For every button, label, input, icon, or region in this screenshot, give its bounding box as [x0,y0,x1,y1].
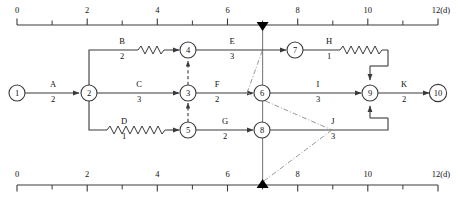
bottom-time-axis: 0 2 4 6 8 10 12(d) [15,169,450,192]
bottom-axis-tick-label-2: 2 [85,169,89,179]
activity-A-duration: 2 [51,94,55,104]
activity-label-F: F 2 [215,79,220,104]
bottom-axis-tick-label-8: 8 [296,169,300,179]
activity-B-duration: 2 [120,51,124,61]
activity-label-J: J 3 [331,116,335,141]
top-axis-tick-label-6: 6 [225,5,229,15]
time-marker-triangle-top [257,22,269,31]
activity-B-name: B [119,36,125,46]
top-axis-unit-label: 12(d) [432,5,451,15]
node-7-label: 7 [293,45,297,55]
activity-line-J [270,118,388,130]
activity-K-name: K [401,79,408,89]
activity-label-B: B 2 [119,36,125,61]
time-marker-triangle-bottom [257,179,269,188]
node-2[interactable]: 2 [81,85,97,101]
node-2-label: 2 [87,88,91,98]
fan-construction-lines [247,50,332,182]
node-3-label: 3 [186,88,190,98]
activity-label-A: A 2 [50,79,57,104]
top-axis-tick-label-2: 2 [85,5,89,15]
network-diagram-canvas: 0 2 4 6 8 10 12(d) 0 2 4 6 8 10 [0,0,460,205]
activity-J-name: J [331,116,335,126]
activity-I-duration: 3 [316,94,320,104]
activity-H-duration: 1 [327,51,331,61]
activity-H-name: H [326,36,332,46]
activity-float-spring-B [138,46,171,54]
activity-D-name: D [121,116,127,126]
node-9[interactable]: 9 [362,85,378,101]
node-8[interactable]: 8 [254,122,270,138]
bottom-axis-tick-label-10: 10 [364,169,373,179]
bottom-axis-tick-label-6: 6 [225,169,229,179]
activity-line-B [89,50,138,85]
node-10[interactable]: 10 [429,84,446,101]
activity-label-K: K 2 [401,79,408,104]
top-axis-tick-label-0: 0 [15,5,19,15]
node-7[interactable]: 7 [287,42,303,58]
bottom-axis-tick-label-0: 0 [15,169,19,179]
activity-I-name: I [317,79,320,89]
activity-J-duration: 3 [331,131,335,141]
activity-C-name: C [136,79,142,89]
node-1-label: 1 [15,88,19,98]
activity-E-name: E [229,36,234,46]
activity-C-duration: 3 [137,94,141,104]
node-6-label: 6 [260,88,264,98]
activity-F-name: F [215,79,220,89]
activity-label-D: D 1 [121,116,127,141]
activity-label-H: H 1 [326,36,332,61]
node-8-label: 8 [260,125,264,135]
node-1[interactable]: 1 [9,85,25,101]
node-5-label: 5 [186,125,190,135]
node-9-label: 9 [368,88,372,98]
node-6[interactable]: 6 [254,85,270,101]
activity-G-duration: 2 [223,131,227,141]
activity-line-D [89,101,107,130]
activity-float-spring-H [340,46,388,54]
activity-A-name: A [50,79,57,89]
activity-float-spring-D [107,126,169,134]
activity-label-E: E 3 [229,36,234,61]
top-time-axis: 0 2 4 6 8 10 12(d) [15,5,450,25]
activity-label-C: C 3 [136,79,142,104]
activity-F-duration: 2 [215,94,219,104]
top-axis-ticks [17,19,438,26]
top-axis-tick-label-10: 10 [364,5,373,15]
node-10-label: 10 [434,88,443,98]
time-marker-line [257,22,269,188]
activity-label-I: I 3 [316,79,320,104]
network-diagram-svg: 0 2 4 6 8 10 12(d) 0 2 4 6 8 10 [0,0,460,205]
bottom-axis-unit-label: 12(d) [432,169,451,179]
activity-D-duration: 1 [122,131,126,141]
activity-G-name: G [222,116,228,126]
activity-label-G: G 2 [222,116,228,141]
node-5[interactable]: 5 [180,122,196,138]
top-axis-tick-label-8: 8 [296,5,300,15]
node-4[interactable]: 4 [180,42,196,58]
activity-K-duration: 2 [402,94,406,104]
bottom-axis-tick-label-4: 4 [155,169,160,179]
top-axis-tick-label-4: 4 [155,5,160,15]
activity-E-duration: 3 [230,51,234,61]
node-3[interactable]: 3 [180,85,196,101]
bottom-axis-ticks [17,185,438,192]
